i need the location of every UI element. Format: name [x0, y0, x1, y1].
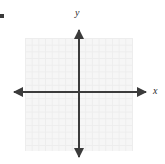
- y-axis-label: y: [75, 8, 79, 18]
- axes-layer: [0, 0, 165, 164]
- x-axis-label: x: [153, 86, 157, 96]
- coordinate-plane-figure: y x: [0, 0, 165, 164]
